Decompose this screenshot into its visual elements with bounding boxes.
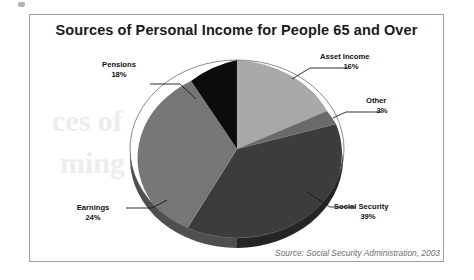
- pie-label-asset-income-name: Asset Income: [320, 52, 369, 61]
- pie-label-other-value: 3%: [366, 106, 398, 116]
- pie-label-other-name: Other: [366, 96, 386, 105]
- pie-label-social-security: Social Security 39%: [334, 202, 420, 223]
- chart-title: Sources of Personal Income for People 65…: [29, 22, 444, 38]
- pie-label-earnings-value: 24%: [62, 213, 124, 223]
- pie-label-asset-income: Asset Income 16%: [320, 52, 406, 73]
- pie-chart-svg: [0, 0, 474, 280]
- pie-chart: [0, 0, 474, 280]
- pie-label-earnings-name: Earnings: [77, 203, 110, 212]
- pie-label-social-security-name: Social Security: [334, 202, 388, 211]
- pie-label-pensions: Pensions 18%: [88, 60, 150, 81]
- pie-label-pensions-name: Pensions: [102, 60, 136, 69]
- pie-label-earnings: Earnings 24%: [62, 203, 124, 224]
- pie-label-asset-income-value: 16%: [320, 62, 382, 72]
- chart-source-note: Source: Social Security Administration, …: [275, 248, 440, 258]
- pie-label-pensions-value: 18%: [88, 70, 150, 80]
- pie-label-other: Other 3%: [366, 96, 416, 117]
- pie-label-social-security-value: 39%: [334, 212, 402, 222]
